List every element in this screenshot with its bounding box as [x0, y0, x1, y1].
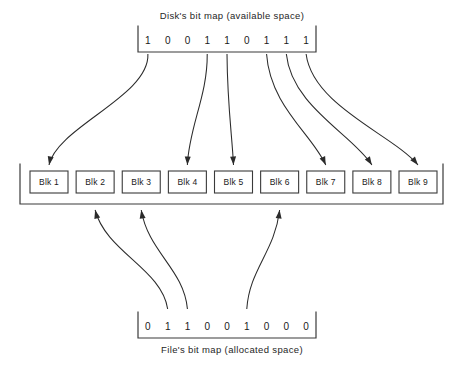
block-label: Blk 2 [85, 177, 105, 187]
disk-bitmap-bit: 1 [303, 35, 309, 46]
file-bitmap-bit: 1 [244, 321, 250, 332]
file-bitmap-bit: 0 [264, 321, 270, 332]
disk-bit-to-block-arrow-head [320, 156, 326, 165]
disk-bitmap-bit: 1 [284, 35, 290, 46]
block-row: Blk 1Blk 2Blk 3Blk 4Blk 5Blk 6Blk 7Blk 8… [20, 164, 443, 204]
block-label: Blk 1 [39, 177, 59, 187]
file-bitmap-bit: 0 [284, 321, 290, 332]
block-label: Blk 4 [177, 177, 197, 187]
disk-bitmap-bit: 1 [204, 35, 210, 46]
file-bit-to-block-arrow-head [140, 210, 146, 219]
disk-bit-to-block-arrow [227, 54, 234, 165]
disk-bit-to-block-arrow-head [230, 156, 236, 165]
disk-bitmap-bit: 0 [185, 35, 191, 46]
file-bitmap-bit: 0 [303, 321, 309, 332]
file-bit-to-block-arrow [141, 210, 187, 309]
disk-bit-to-block-arrow-head [185, 156, 191, 165]
file-bitmap-bit: 0 [224, 321, 230, 332]
disk-bit-to-block-arrow [267, 54, 326, 165]
disk-bit-to-block-arrow [187, 54, 207, 165]
file-bit-to-block-arrow-head [94, 210, 100, 219]
file-bit-to-block-arrow-head [276, 210, 282, 219]
disk-bitmap-bit: 0 [244, 35, 250, 46]
disk-bit-to-block-arrow [286, 54, 372, 165]
file-bitmap-bit: 0 [145, 321, 151, 332]
disk-bitmap: 100110111 [138, 26, 316, 52]
block-label: Blk 8 [362, 177, 382, 187]
block-label: Blk 9 [408, 177, 428, 187]
file-bitmap-caption: File's bit map (allocated space) [161, 344, 303, 355]
block-label: Blk 3 [131, 177, 151, 187]
disk-bitmap-caption: Disk's bit map (available space) [160, 10, 304, 21]
file-bit-to-block-arrow [247, 210, 280, 309]
diagram-canvas: Disk's bit map (available space) 1001101… [0, 0, 464, 367]
disk-bit-to-block-arrow-head [48, 156, 54, 165]
block-label: Blk 5 [224, 177, 244, 187]
file-bitmap-bit: 1 [185, 321, 191, 332]
block-label: Blk 6 [270, 177, 290, 187]
disk-bitmap-bit: 1 [264, 35, 270, 46]
file-bitmap-bit: 0 [204, 321, 210, 332]
disk-to-block-arrows [48, 54, 418, 165]
disk-bitmap-bit: 1 [224, 35, 230, 46]
disk-bitmap-bit: 0 [165, 35, 171, 46]
file-bitmap-bit: 1 [165, 321, 171, 332]
disk-bitmap-bit: 1 [145, 35, 151, 46]
disk-bit-to-block-arrow [306, 54, 418, 165]
file-bit-to-block-arrow [95, 210, 168, 309]
disk-bit-to-block-arrow [49, 54, 148, 165]
block-label: Blk 7 [316, 177, 336, 187]
bitmap-allocation-diagram: Disk's bit map (available space) 1001101… [0, 0, 464, 367]
file-bitmap: 011001000 [138, 312, 316, 338]
file-to-block-arrows [94, 210, 281, 309]
